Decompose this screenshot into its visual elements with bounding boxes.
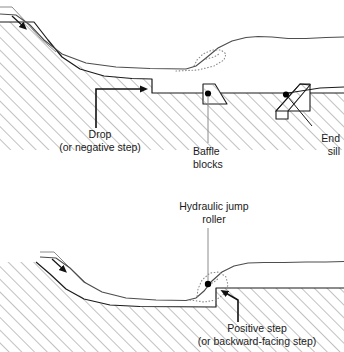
baffle-block-marker-dot — [205, 90, 211, 96]
end-sill-marker-dot — [283, 91, 289, 97]
hydraulic-jump-roller-label: Hydraulic jump roller — [152, 200, 276, 225]
lower-roller-marker-dot — [205, 281, 211, 287]
positive-step-label: Positive step (or backward-facing step) — [172, 322, 342, 347]
upper-downstream-water-surface — [186, 37, 344, 70]
drop-label: Drop (or negative step) — [22, 128, 178, 153]
hydraulic-structures-figure — [0, 0, 344, 352]
end-sill-label: End sill — [286, 132, 340, 157]
upper-hydraulic-jump-roller — [176, 50, 226, 71]
baffle-blocks-label: Baffle blocks — [193, 145, 263, 170]
